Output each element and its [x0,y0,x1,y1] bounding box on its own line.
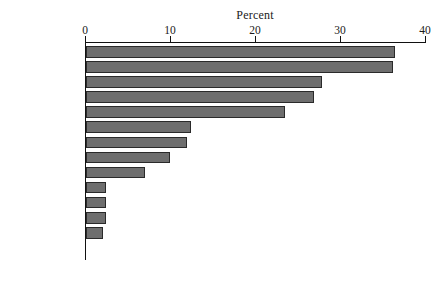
bar-track [86,151,426,166]
bar-rows: AustriaCanadaPortugalAustraliaNetherland… [0,45,446,271]
bar [86,76,322,88]
bar [86,212,106,224]
bar-row: Japan [0,181,446,196]
bar-track [86,105,426,120]
bar-track [86,166,426,181]
bar-category-label: Austria [0,45,82,60]
bar-category-label: Denmark [0,151,82,166]
bar [86,137,187,149]
bar-row: Canada [0,60,446,75]
bar [86,91,314,103]
bar-category-label: Japan [0,181,82,196]
bar-chart: Percent 0 10 20 30 40 AustriaCanadaPortu… [0,0,446,290]
bar-track [86,226,426,241]
bar-row: Austria [0,45,446,60]
bar-row: Australia [0,90,446,105]
x-tick-mark-10 [170,36,171,42]
bar-category-label: Finland [0,256,82,271]
bar-category-label: Iceland [0,226,82,241]
bar [86,197,106,209]
bar-track [86,241,426,256]
bar-row: Switzerland [0,196,446,211]
bar-track [86,45,426,60]
bar-row: Sweden [0,241,446,256]
bar-category-label: Switzerland [0,196,82,211]
bar [86,152,170,164]
bar-category-label: Sweden [0,241,82,256]
bar-row: Norway [0,211,446,226]
x-axis-tick-labels: 0 10 20 30 40 [0,24,446,38]
chart-axis-title: Percent [85,9,425,22]
bar-row: U.S. [0,120,446,135]
bar-row: Germany [0,136,446,151]
bar-category-label: Australia [0,90,82,105]
bar-track [86,196,426,211]
x-tick-mark-30 [340,36,341,42]
bar [86,61,393,73]
bar-category-label: Netherlands [0,105,82,120]
bar-row: Finland [0,256,446,271]
x-axis-line [85,42,426,43]
bar-category-label: France [0,166,82,181]
bar-track [86,60,426,75]
bar [86,121,191,133]
bar [86,227,103,239]
bar-track [86,136,426,151]
bar [86,106,285,118]
bar-category-label: Portugal [0,75,82,90]
bar-row: Netherlands [0,105,446,120]
bar-category-label: Germany [0,136,82,151]
bar-category-label: U.S. [0,120,82,135]
x-tick-mark-40 [425,36,426,43]
bar-category-label: Canada [0,60,82,75]
bar-row: Iceland [0,226,446,241]
bar-row: France [0,166,446,181]
bar-track [86,211,426,226]
bar-track [86,256,426,271]
bar-track [86,120,426,135]
bar [86,167,145,179]
bar-track [86,75,426,90]
bar-track [86,181,426,196]
bar [86,46,395,58]
bar [86,182,106,194]
bar-track [86,90,426,105]
x-tick-mark-20 [255,36,256,42]
bar-category-label: Norway [0,211,82,226]
bar-row: Portugal [0,75,446,90]
bar-row: Denmark [0,151,446,166]
